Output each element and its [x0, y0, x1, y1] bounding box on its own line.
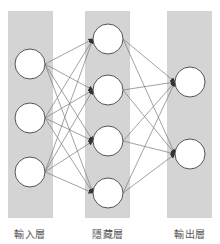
hidden-node-2 [93, 75, 123, 105]
input-node-2 [15, 103, 45, 133]
hidden-node-4 [93, 178, 123, 208]
output-node-2 [175, 139, 205, 169]
input-node-1 [15, 49, 45, 79]
output-node-1 [175, 67, 205, 97]
output-layer-band [167, 11, 212, 218]
hidden-node-1 [93, 24, 123, 54]
neural-network-diagram [0, 0, 220, 244]
hidden-layer-label: 隱藏層 [78, 226, 138, 241]
input-layer-label: 輸入層 [0, 226, 60, 241]
input-node-3 [15, 157, 45, 187]
output-layer-label: 輸出層 [160, 226, 220, 241]
hidden-node-3 [93, 126, 123, 156]
